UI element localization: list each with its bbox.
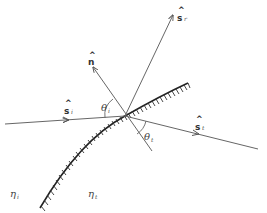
interface-surface xyxy=(40,83,190,211)
svg-text:η: η xyxy=(88,188,94,199)
label-eta-i: η i xyxy=(10,188,19,200)
svg-text:s: s xyxy=(64,106,69,116)
label-eta-t: η t xyxy=(88,188,98,200)
svg-text:i: i xyxy=(71,108,73,115)
svg-text:s: s xyxy=(195,122,200,132)
svg-text:η: η xyxy=(10,188,16,199)
svg-text:r: r xyxy=(184,15,188,22)
label-s-i: ^ s i xyxy=(64,99,73,116)
svg-text:t: t xyxy=(95,193,98,200)
svg-text:θ: θ xyxy=(101,102,107,113)
refraction-diagram: ^ n ^ s r ^ s i ^ s t θ i θ t η i η t xyxy=(0,0,267,213)
svg-text:i: i xyxy=(17,193,19,200)
svg-text:t: t xyxy=(202,124,205,131)
surface-hatching xyxy=(41,83,190,211)
incident-ray xyxy=(5,116,125,124)
label-s-t: ^ s t xyxy=(195,115,205,132)
svg-text:θ: θ xyxy=(144,131,150,142)
reflected-ray xyxy=(125,15,173,116)
svg-text:s: s xyxy=(177,13,182,23)
label-theta-t: θ t xyxy=(144,131,154,143)
label-s-r: ^ s r xyxy=(177,6,188,23)
svg-text:n: n xyxy=(88,57,94,67)
label-n-hat: ^ n xyxy=(88,51,96,67)
svg-text:t: t xyxy=(151,136,154,143)
svg-text:i: i xyxy=(108,107,110,114)
